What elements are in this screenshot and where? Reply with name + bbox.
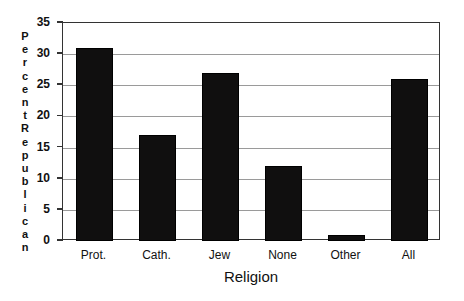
gridline: [63, 116, 439, 117]
gridline: [63, 210, 439, 211]
y-tick-label: 0: [24, 234, 50, 246]
x-tick-label: Cath.: [125, 248, 188, 262]
gridline: [63, 85, 439, 86]
x-axis-title: Religion: [62, 268, 440, 286]
gridline: [63, 179, 439, 180]
gridline: [63, 54, 439, 55]
plot-inner: [63, 23, 439, 239]
plot-area: [62, 22, 440, 240]
y-tick-label: 10: [24, 172, 50, 184]
y-tick-label: 35: [24, 16, 50, 28]
bar: [202, 73, 240, 241]
y-axis-title-char: l: [23, 188, 26, 201]
y-tick-label: 20: [24, 109, 50, 121]
y-tick-label: 25: [24, 78, 50, 90]
y-axis-title-char: n: [22, 96, 29, 109]
bar-chart-figure: PercentRepublican 05101520253035 Prot.Ca…: [0, 0, 464, 301]
y-axis-title: PercentRepublican: [14, 30, 36, 248]
y-axis-title-char: P: [21, 30, 28, 43]
x-tick-label: Other: [314, 248, 377, 262]
bar: [391, 79, 429, 241]
bar: [265, 166, 303, 241]
x-tick-label: Jew: [188, 248, 251, 262]
y-axis-title-char: c: [22, 215, 28, 228]
y-axis-title-char: R: [21, 122, 29, 135]
y-tick-label: 15: [24, 141, 50, 153]
bar: [328, 235, 366, 241]
bar: [76, 48, 114, 241]
gridline: [63, 148, 439, 149]
x-tick-label: Prot.: [62, 248, 125, 262]
x-tick-label: All: [377, 248, 440, 262]
y-tick-label: 30: [24, 47, 50, 59]
x-tick-label: None: [251, 248, 314, 262]
y-tick-label: 5: [24, 203, 50, 215]
bar: [139, 135, 177, 241]
